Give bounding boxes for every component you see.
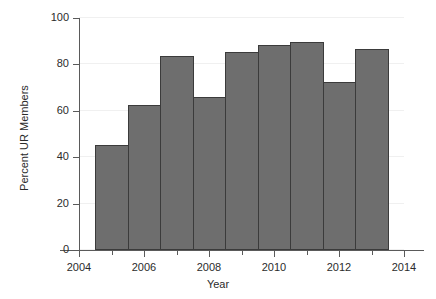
plot-area [79, 18, 404, 250]
bar [128, 105, 162, 250]
x-tick-mark [339, 251, 340, 257]
bar [355, 49, 389, 250]
x-axis-title: Year [0, 278, 436, 290]
y-tick-label: 60 [35, 105, 69, 116]
x-tick-label: 2006 [121, 261, 167, 273]
bar [95, 145, 129, 250]
x-tick-label: 2008 [186, 261, 232, 273]
x-tick-minor-mark [112, 251, 113, 255]
y-tick-mark [73, 204, 79, 205]
y-axis-line [79, 18, 80, 251]
bar [225, 52, 259, 250]
bar [290, 42, 324, 250]
y-tick-mark [73, 157, 79, 158]
y-tick-mark [73, 64, 79, 65]
y-tick-mark [73, 18, 79, 19]
y-tick-label: 100 [35, 12, 69, 23]
x-tick-minor-mark [307, 251, 308, 255]
y-tick-label: 20 [35, 198, 69, 209]
bar [193, 97, 227, 250]
x-tick-mark [274, 251, 275, 257]
x-tick-label: 2012 [316, 261, 362, 273]
y-axis-tick-labels: 020406080100 [31, 0, 69, 299]
x-tick-label: 2010 [251, 261, 297, 273]
x-tick-label: 2014 [381, 261, 427, 273]
x-tick-mark [79, 251, 80, 257]
bar [323, 82, 357, 250]
x-tick-minor-mark [177, 251, 178, 255]
y-tick-label: 40 [35, 151, 69, 162]
y-tick-label: 80 [35, 58, 69, 69]
x-tick-mark [404, 251, 405, 257]
bar [160, 56, 194, 250]
bar [258, 45, 292, 250]
x-tick-minor-mark [372, 251, 373, 255]
x-tick-mark [144, 251, 145, 257]
y-axis-title: Percent UR Members [18, 58, 30, 218]
bars-layer [79, 18, 404, 250]
y-tick-mark [73, 111, 79, 112]
bar-chart: 020406080100 200420062008201020122014 Pe… [0, 0, 436, 299]
x-tick-label: 2004 [56, 261, 102, 273]
x-tick-mark [209, 251, 210, 257]
y-tick-label: 0 [35, 244, 69, 255]
x-tick-minor-mark [242, 251, 243, 255]
